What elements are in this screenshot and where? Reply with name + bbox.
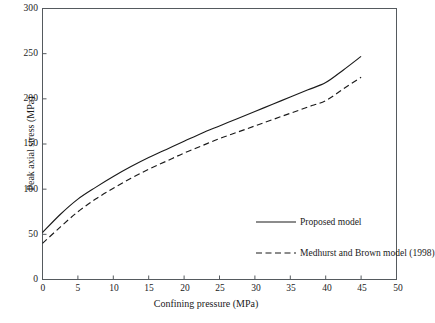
legend-entry-proposed-model: Proposed model [300,217,361,227]
legend-entry-medhurst-brown-model: Medhurst and Brown model (1998) [300,248,435,258]
x-tick-label: 40 [315,283,339,293]
x-tick-label: 35 [279,283,303,293]
x-axis-title: Confining pressure (MPa) [0,298,412,309]
x-tick-label: 10 [102,283,126,293]
y-axis-title: Peak axial stress (MPa) [25,54,36,234]
x-tick-label: 15 [137,283,161,293]
x-tick-label: 0 [31,283,55,293]
x-tick-label: 45 [350,283,374,293]
x-tick-label: 5 [66,283,90,293]
plot-frame [43,9,397,280]
x-tick-label: 20 [173,283,197,293]
x-tick-label: 30 [244,283,268,293]
x-tick-label: 25 [208,283,232,293]
y-tick-label: 300 [5,3,38,13]
x-tick-label: 50 [386,283,410,293]
